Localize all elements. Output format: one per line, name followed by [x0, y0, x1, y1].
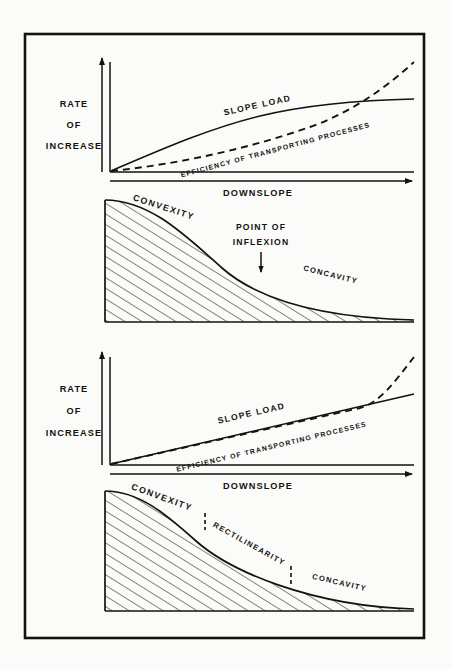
graph-top-y-label-line-3: INCREASE: [46, 141, 102, 151]
graph-top-y-label-line-1: RATE: [60, 99, 89, 109]
graph-top-efficiency-label: EFFICIENCY OF TRANSPORTING PROCESSES: [180, 121, 371, 178]
profile-bottom-concavity-label: CONCAVITY: [311, 572, 367, 593]
graph-bottom-slope-load-label: SLOPE LOAD: [217, 400, 286, 425]
profile-top-concavity-label: CONCAVITY: [302, 263, 358, 285]
graph-top-slope-load-label: SLOPE LOAD: [223, 93, 292, 118]
profile-top: CONVEXITY CONCAVITY POINT OF INFLEXION: [95, 185, 435, 335]
figure-canvas: RATE OF INCREASE DOWNSLOPE SLOPE LOAD EF…: [0, 0, 452, 669]
profile-top-inflexion-label-line-2: INFLEXION: [233, 237, 290, 247]
graph-bottom-x-label: DOWNSLOPE: [223, 481, 293, 491]
profile-top-hachure-fill: [95, 185, 435, 335]
graph-top: RATE OF INCREASE DOWNSLOPE SLOPE LOAD EF…: [46, 58, 414, 198]
graph-bottom: RATE OF INCREASE DOWNSLOPE SLOPE LOAD EF…: [46, 352, 414, 491]
graph-bottom-y-label-line-3: INCREASE: [46, 428, 102, 438]
profile-bottom: CONVEXITY RECTILINEARITY CONCAVITY: [95, 478, 435, 624]
profile-top-inflexion-label-line-1: POINT OF: [236, 222, 286, 232]
graph-bottom-y-label-line-1: RATE: [60, 384, 89, 394]
graph-top-x-label: DOWNSLOPE: [223, 188, 293, 198]
graph-top-y-label-line-2: OF: [67, 120, 82, 130]
graph-top-slope-load-curve: [111, 99, 414, 171]
figure-page: RATE OF INCREASE DOWNSLOPE SLOPE LOAD EF…: [0, 0, 452, 669]
graph-bottom-y-label-line-2: OF: [67, 406, 82, 416]
